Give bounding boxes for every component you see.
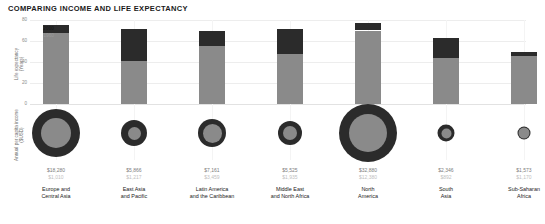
bar-segment-2000 bbox=[121, 29, 147, 61]
chart-column-sub-saharan-africa[interactable]: $1,573$1,170Sub-SaharanAfrica bbox=[484, 0, 545, 224]
bar-segment-1960 bbox=[121, 61, 147, 104]
bar-segment-1960 bbox=[511, 56, 537, 104]
income-value-2000: $7,161 bbox=[172, 167, 252, 174]
income-value-2000: $2,346 bbox=[406, 167, 486, 174]
category-label-line2: and the Caribbean bbox=[172, 193, 252, 200]
category-label-line1: Latin America bbox=[172, 186, 252, 193]
income-value-1960: $1,935 bbox=[250, 174, 330, 181]
income-values-sub-saharan-africa: $1,573$1,170 bbox=[484, 167, 545, 181]
bar-south-asia[interactable] bbox=[406, 20, 486, 104]
bar-latin-america-caribbean[interactable] bbox=[172, 20, 252, 104]
bubble-outer-2000 bbox=[278, 121, 302, 145]
income-values-europe-central-asia: $18,280$1,010 bbox=[16, 167, 96, 181]
income-values-north-america: $32,880$12,380 bbox=[328, 167, 408, 181]
chart-column-north-america[interactable]: $32,880$12,380NorthAmerica bbox=[328, 0, 408, 224]
bar-segment-1960 bbox=[43, 33, 69, 104]
category-label-east-asia-pacific: East Asiaand Pacific bbox=[94, 186, 174, 199]
bar-segment-2000 bbox=[199, 31, 225, 47]
bar-north-america[interactable] bbox=[328, 20, 408, 104]
category-label-line1: Europe and bbox=[16, 186, 96, 193]
income-value-2000: $5,866 bbox=[94, 167, 174, 174]
bubble-outer-2000 bbox=[32, 109, 80, 157]
income-value-1960: $1,010 bbox=[16, 174, 96, 181]
income-value-2000: $1,573 bbox=[484, 167, 545, 174]
category-label-north-america: NorthAmerica bbox=[328, 186, 408, 199]
chart-column-europe-central-asia[interactable]: 20001960$18,280$1,010Europe andCentral A… bbox=[16, 0, 96, 224]
income-values-latin-america-caribbean: $7,161$3,459 bbox=[172, 167, 252, 181]
bar-europe-central-asia[interactable] bbox=[16, 20, 96, 104]
chart-column-east-asia-pacific[interactable]: $5,866$1,217East Asiaand Pacific bbox=[94, 0, 174, 224]
category-label-line2: and North Africa bbox=[250, 193, 330, 200]
category-label-middle-east-north-africa: Middle Eastand North Africa bbox=[250, 186, 330, 199]
bar-segment-2000 bbox=[433, 38, 459, 58]
category-label-line2: Africa bbox=[484, 193, 545, 200]
bubble-outer-2000 bbox=[121, 120, 147, 146]
bubble-east-asia-pacific[interactable] bbox=[121, 120, 147, 146]
income-value-2000: $18,280 bbox=[16, 167, 96, 174]
bubble-europe-central-asia[interactable] bbox=[32, 109, 80, 157]
income-value-2000: $5,525 bbox=[250, 167, 330, 174]
bubble-middle-east-north-africa[interactable] bbox=[278, 121, 302, 145]
income-value-1960: $1,170 bbox=[484, 174, 545, 181]
category-label-line2: Central Asia bbox=[16, 193, 96, 200]
bubble-sub-saharan-africa[interactable] bbox=[518, 127, 531, 140]
bar-segment-2000 bbox=[355, 23, 381, 30]
bubble-latin-america-caribbean[interactable] bbox=[198, 119, 226, 147]
income-values-middle-east-north-africa: $5,525$1,935 bbox=[250, 167, 330, 181]
chart-column-south-asia[interactable]: $2,346$892SouthAsia bbox=[406, 0, 486, 224]
chart-column-latin-america-caribbean[interactable]: $7,161$3,459Latin Americaand the Caribbe… bbox=[172, 0, 252, 224]
annotation-year-1960: 1960 bbox=[30, 33, 54, 38]
bar-segment-1960 bbox=[277, 54, 303, 104]
bubble-inner-1960 bbox=[349, 114, 387, 152]
income-value-1960: $1,217 bbox=[94, 174, 174, 181]
bar-middle-east-north-africa[interactable] bbox=[250, 20, 330, 104]
income-value-2000: $32,880 bbox=[328, 167, 408, 174]
income-values-south-asia: $2,346$892 bbox=[406, 167, 486, 181]
bar-sub-saharan-africa[interactable] bbox=[484, 20, 545, 104]
bubble-inner-1960 bbox=[128, 127, 141, 140]
category-label-sub-saharan-africa: Sub-SaharanAfrica bbox=[484, 186, 545, 199]
category-label-line1: Sub-Saharan bbox=[484, 186, 545, 193]
bar-east-asia-pacific[interactable] bbox=[94, 20, 174, 104]
category-label-line1: North bbox=[328, 186, 408, 193]
category-label-latin-america-caribbean: Latin Americaand the Caribbean bbox=[172, 186, 252, 199]
bubble-inner-1960 bbox=[203, 124, 222, 143]
income-value-1960: $12,380 bbox=[328, 174, 408, 181]
bar-segment-1960 bbox=[199, 46, 225, 104]
bubble-inner-1960 bbox=[519, 128, 530, 139]
bubble-inner-1960 bbox=[41, 118, 71, 148]
income-values-east-asia-pacific: $5,866$1,217 bbox=[94, 167, 174, 181]
category-label-south-asia: SouthAsia bbox=[406, 186, 486, 199]
category-label-line1: East Asia bbox=[94, 186, 174, 193]
bubble-outer-2000 bbox=[518, 127, 531, 140]
category-label-line2: America bbox=[328, 193, 408, 200]
income-value-1960: $892 bbox=[406, 174, 486, 181]
bar-segment-1960 bbox=[433, 58, 459, 104]
bubble-outer-2000 bbox=[438, 125, 455, 142]
bubble-inner-1960 bbox=[441, 128, 451, 138]
category-label-europe-central-asia: Europe andCentral Asia bbox=[16, 186, 96, 199]
bubble-south-asia[interactable] bbox=[438, 125, 455, 142]
bubble-outer-2000 bbox=[198, 119, 226, 147]
bubble-inner-1960 bbox=[283, 126, 297, 140]
income-value-1960: $3,459 bbox=[172, 174, 252, 181]
category-label-line2: and Pacific bbox=[94, 193, 174, 200]
category-label-line1: South bbox=[406, 186, 486, 193]
bubble-outer-2000 bbox=[339, 104, 397, 162]
category-label-line2: Asia bbox=[406, 193, 486, 200]
annotation-year-2000: 2000 bbox=[30, 26, 54, 31]
bar-segment-2000 bbox=[277, 29, 303, 53]
bar-segment-1960 bbox=[355, 31, 381, 105]
chart-column-middle-east-north-africa[interactable]: $5,525$1,935Middle Eastand North Africa bbox=[250, 0, 330, 224]
category-label-line1: Middle East bbox=[250, 186, 330, 193]
bubble-north-america[interactable] bbox=[339, 104, 397, 162]
